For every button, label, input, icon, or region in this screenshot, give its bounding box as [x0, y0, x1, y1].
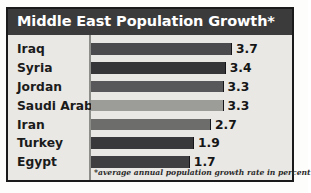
bar-row: Iran2.7 — [8, 115, 292, 134]
bar-row: Syria3.4 — [8, 59, 292, 78]
bar-value-label: 3.3 — [228, 96, 250, 115]
bar — [91, 43, 232, 54]
bar-category-label: Egypt — [17, 153, 57, 172]
bar-value-label: 3.7 — [236, 40, 258, 59]
chart-frame: Middle East Population Growth* Iraq3.7Sy… — [6, 7, 294, 182]
bar-row: Iraq3.7 — [8, 40, 292, 59]
bar — [91, 100, 224, 111]
bar-row: Jordan3.3 — [8, 78, 292, 97]
bar-value-label: 3.3 — [228, 78, 250, 97]
bar — [91, 156, 190, 167]
bar-category-label: Turkey — [17, 134, 63, 153]
bar — [91, 62, 226, 73]
bar-row: Saudi Arabia3.3 — [8, 96, 292, 115]
bar-category-label: Iran — [17, 115, 45, 134]
bar — [91, 119, 211, 130]
bar-value-label: 1.9 — [198, 134, 220, 153]
bar-row: Turkey1.9 — [8, 134, 292, 153]
bar-category-label: Jordan — [17, 78, 62, 97]
chart-title-band: Middle East Population Growth* — [8, 9, 292, 35]
bar-category-label: Syria — [17, 59, 52, 78]
bar-value-label: 3.4 — [230, 59, 252, 78]
bar-value-label: 2.7 — [215, 115, 237, 134]
page-title: Middle East Population Growth* — [17, 13, 275, 29]
chart-footnote: *average annual population growth rate i… — [94, 168, 308, 177]
chart-plot-area: Iraq3.7Syria3.4Jordan3.3Saudi Arabia3.3I… — [8, 35, 292, 180]
bar — [91, 137, 194, 148]
bar — [91, 81, 224, 92]
bar-category-label: Iraq — [17, 40, 45, 59]
chart-figure: Middle East Population Growth* Iraq3.7Sy… — [0, 0, 308, 193]
